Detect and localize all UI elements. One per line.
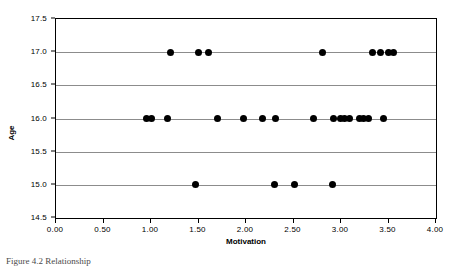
x-tick-mark bbox=[340, 219, 341, 223]
data-point bbox=[192, 181, 199, 188]
data-point bbox=[167, 49, 174, 56]
x-tick-mark bbox=[103, 219, 104, 223]
figure-caption: Figure 4.2 Relationship bbox=[6, 256, 91, 266]
y-tick-label: 15.5 bbox=[31, 146, 47, 155]
x-tick-mark bbox=[245, 219, 246, 223]
y-tick-label: 15.0 bbox=[31, 179, 47, 188]
x-tick-label: 1.50 bbox=[189, 225, 205, 234]
x-tick-label: 0.00 bbox=[47, 225, 63, 234]
data-point bbox=[148, 115, 155, 122]
data-point bbox=[380, 115, 387, 122]
gridline-y bbox=[56, 85, 436, 86]
data-point bbox=[319, 49, 326, 56]
x-tick-mark bbox=[388, 219, 389, 223]
data-point bbox=[346, 115, 353, 122]
x-tick-mark bbox=[293, 219, 294, 223]
gridline-y bbox=[56, 152, 436, 153]
x-tick-label: 4.00 bbox=[427, 225, 443, 234]
x-tick-mark bbox=[435, 219, 436, 223]
data-point bbox=[310, 115, 317, 122]
x-tick-label: 0.50 bbox=[94, 225, 110, 234]
data-point bbox=[365, 115, 372, 122]
data-point bbox=[329, 181, 336, 188]
data-point bbox=[164, 115, 171, 122]
data-point bbox=[205, 49, 212, 56]
x-tick-label: 2.00 bbox=[237, 225, 253, 234]
data-point bbox=[330, 115, 337, 122]
x-tick-mark bbox=[198, 219, 199, 223]
x-tick-label: 3.00 bbox=[332, 225, 348, 234]
y-axis: 14.515.015.516.016.517.017.5 bbox=[0, 18, 55, 219]
plot-area bbox=[55, 18, 437, 219]
data-point bbox=[291, 181, 298, 188]
data-point bbox=[259, 115, 266, 122]
x-axis: 0.000.501.001.502.002.503.003.504.00 bbox=[55, 219, 437, 239]
x-axis-title: Motivation bbox=[55, 237, 437, 246]
y-tick-label: 17.0 bbox=[31, 47, 47, 56]
x-tick-label: 1.00 bbox=[142, 225, 158, 234]
scatter-plot-figure: Age 14.515.015.516.016.517.017.5 0.000.5… bbox=[0, 0, 450, 266]
data-point bbox=[240, 115, 247, 122]
data-point bbox=[195, 49, 202, 56]
data-point bbox=[214, 115, 221, 122]
x-tick-mark bbox=[150, 219, 151, 223]
y-tick-label: 14.5 bbox=[31, 213, 47, 222]
y-tick-label: 16.0 bbox=[31, 113, 47, 122]
y-tick-label: 16.5 bbox=[31, 80, 47, 89]
data-point bbox=[272, 115, 279, 122]
data-point bbox=[369, 49, 376, 56]
data-point bbox=[271, 181, 278, 188]
data-point bbox=[377, 49, 384, 56]
x-tick-label: 3.50 bbox=[379, 225, 395, 234]
x-tick-label: 2.50 bbox=[284, 225, 300, 234]
x-tick-mark bbox=[55, 219, 56, 223]
data-point bbox=[390, 49, 397, 56]
y-tick-label: 17.5 bbox=[31, 14, 47, 23]
gridline-y bbox=[56, 185, 436, 186]
